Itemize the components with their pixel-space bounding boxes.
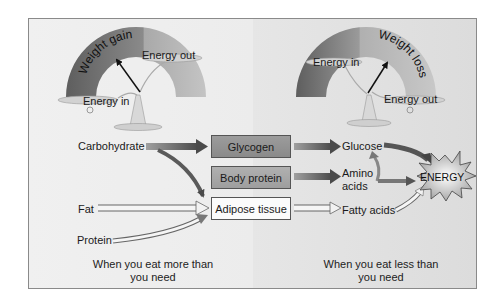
source-protein: Protein: [77, 234, 112, 246]
energy-label: ENERGY: [420, 171, 464, 183]
left-energy-out-label: Energy out: [142, 49, 195, 61]
product-fatty-acids: Fatty acids: [342, 204, 395, 216]
source-fat: Fat: [78, 203, 94, 215]
right-caption-line2: you need: [316, 271, 446, 284]
product-amino-line2: acids: [342, 180, 368, 192]
right-caption-line1: When you eat less than: [316, 258, 446, 271]
left-caption-line2: you need: [88, 271, 218, 284]
left-flow-arrows: [98, 139, 209, 241]
product-amino-line1: Amino: [342, 167, 373, 179]
left-energy-in-label: Energy in: [83, 95, 129, 107]
box-adipose-tissue: Adipose tissue: [211, 197, 291, 220]
left-caption-line1: When you eat more than: [88, 258, 218, 271]
product-glucose: Glucose: [342, 140, 382, 152]
right-energy-in-label: Energy in: [313, 56, 359, 68]
box-glycogen: Glycogen: [211, 135, 291, 158]
left-scale: [58, 27, 206, 131]
box-body-protein: Body protein: [211, 166, 291, 189]
right-caption: When you eat less than you need: [316, 258, 446, 284]
source-carbohydrate: Carbohydrate: [78, 140, 145, 152]
left-caption: When you eat more than you need: [88, 258, 218, 284]
right-energy-out-label: Energy out: [384, 93, 437, 105]
